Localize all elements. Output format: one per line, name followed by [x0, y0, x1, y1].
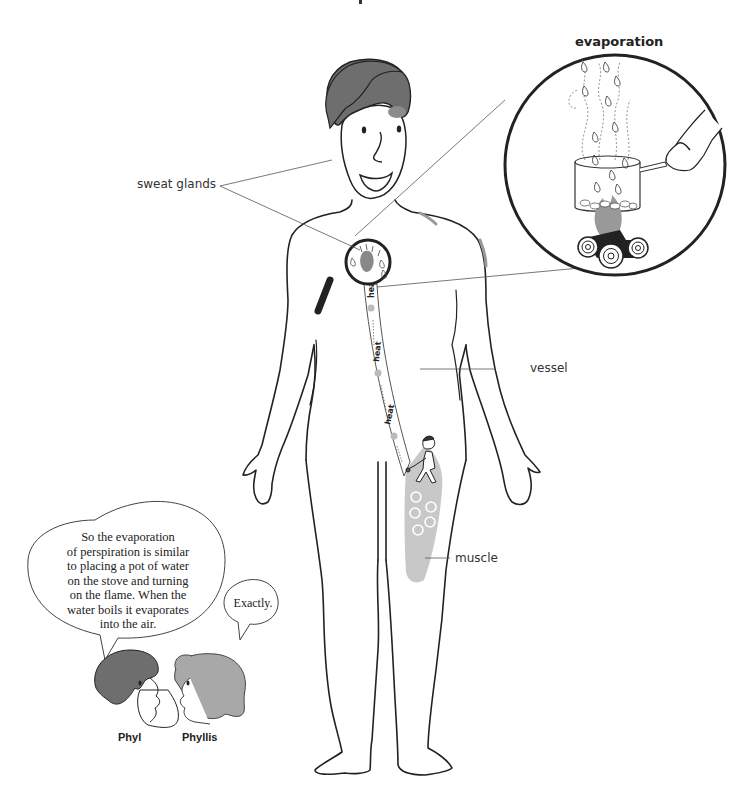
phyllis-speech: Exactly. [228, 596, 278, 611]
phyl-speech: So the evaporation of perspiration is si… [38, 530, 218, 632]
speech-line: to placing a pot of water [38, 559, 218, 574]
muscle-label: muscle [455, 551, 498, 565]
phyl-name: Phyl [118, 731, 141, 743]
sweat-glands-label: sweat glands [137, 177, 216, 191]
speech-line: on the flame. When the [38, 588, 218, 603]
speech-line: water boils it evaporates [38, 603, 218, 618]
human-body-outline [243, 200, 540, 775]
speech-line: of perspiration is similar [38, 545, 218, 560]
magnifier [318, 240, 390, 311]
evaporation-title: evaporation [575, 34, 663, 49]
shoulder-shading [480, 240, 486, 266]
evaporation-inset [505, 55, 725, 275]
heat-label: heat [372, 341, 383, 362]
phyllis-face [175, 654, 246, 724]
phyl-face [95, 650, 179, 727]
phyllis-name: Phyllis [182, 731, 217, 743]
vessel-label: vessel [530, 361, 568, 375]
title-fragment [359, 0, 362, 4]
speech-line: So the evaporation [38, 530, 218, 545]
speech-line: into the air. [38, 617, 218, 632]
speech-line: on the stove and turning [38, 574, 218, 589]
blood-vessel: heat heat heat [364, 277, 410, 476]
head [326, 59, 411, 198]
diagram-canvas: heat heat heat [0, 0, 751, 806]
